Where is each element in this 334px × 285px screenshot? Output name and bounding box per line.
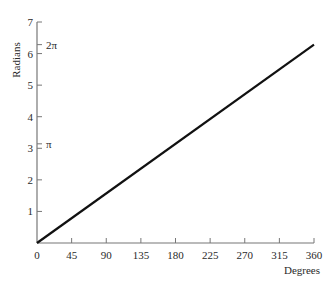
y-tick-label: 5: [28, 79, 34, 91]
x-tick-label: 180: [167, 249, 184, 261]
x-tick-label: 0: [34, 249, 40, 261]
y-axis: 1234567: [28, 16, 43, 243]
x-tick-label: 45: [66, 249, 78, 261]
y-tick-label: 3: [28, 142, 34, 154]
chart: 1234567 04590135180225270315360 π2π Radi…: [0, 0, 334, 285]
series-line: [37, 45, 314, 243]
annotations: π2π: [37, 39, 58, 150]
x-tick-label: 135: [133, 249, 150, 261]
x-tick-label: 360: [306, 249, 323, 261]
y-tick-label: 1: [28, 205, 34, 217]
annotation-label: 2π: [46, 39, 58, 51]
annotation-label: π: [46, 138, 52, 150]
y-tick-label: 7: [28, 16, 34, 28]
y-tick-label: 2: [28, 174, 34, 186]
x-axis-title: Degrees: [284, 264, 320, 276]
x-tick-label: 90: [101, 249, 113, 261]
y-tick-label: 4: [28, 111, 34, 123]
x-axis: 04590135180225270315360: [34, 238, 323, 261]
x-tick-label: 225: [202, 249, 219, 261]
y-axis-title: Radians: [10, 42, 22, 77]
data-series: [37, 45, 314, 243]
x-tick-label: 315: [271, 249, 288, 261]
x-tick-label: 270: [237, 249, 254, 261]
y-tick-label: 6: [28, 48, 34, 60]
